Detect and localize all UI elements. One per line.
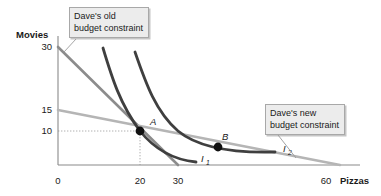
callout-old-budget-constraint: Dave's old budget constraint: [69, 7, 149, 38]
dotted-guides: [58, 131, 140, 165]
callout-new-budget-constraint: Dave's new budget constraint: [265, 104, 345, 135]
curve-label-i1-subscript: 1: [206, 159, 210, 166]
y-tick-label-15: 15: [41, 104, 52, 115]
indifference-curve-figure: A B I 1 I 2 Movies Pizzas 30 15 10 0 20 …: [0, 0, 381, 196]
indifference-curve-i2: [135, 52, 275, 152]
x-tick-label-0: 0: [55, 175, 60, 186]
x-tick-label-30: 30: [173, 175, 184, 186]
old-budget-constraint-line: [58, 47, 178, 165]
x-tick-label-20: 20: [135, 175, 146, 186]
x-axis-title: Pizzas: [340, 175, 369, 186]
point-b-marker: [214, 143, 223, 152]
y-tick-label-10: 10: [41, 125, 52, 136]
point-a-label: A: [149, 116, 156, 127]
callout-new-budget-line2: budget constraint: [270, 120, 339, 132]
old-budget-callout-leader: [64, 39, 76, 52]
callout-new-budget-line1: Dave's new: [270, 108, 339, 120]
y-axis-title: Movies: [16, 29, 48, 40]
y-tick-label-30: 30: [41, 41, 52, 52]
callout-old-budget-line1: Dave's old: [74, 11, 143, 23]
x-tick-label-60: 60: [321, 175, 332, 186]
point-a-marker: [136, 127, 145, 136]
callout-old-budget-line2: budget constraint: [74, 23, 143, 35]
chart-canvas: A B I 1 I 2 Movies Pizzas 30 15 10 0 20 …: [0, 0, 381, 196]
curve-label-i1: I: [201, 153, 204, 164]
point-b-label: B: [222, 131, 229, 142]
